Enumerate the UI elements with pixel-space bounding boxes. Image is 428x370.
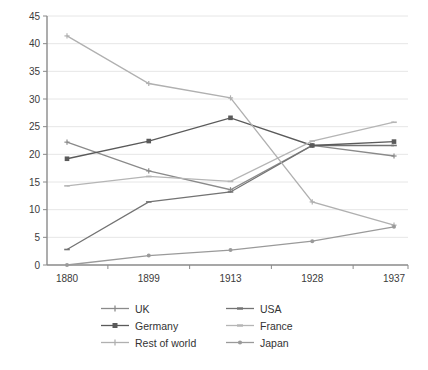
y-axis-tick-labels: 051015202530354045 bbox=[29, 11, 41, 271]
series-layer bbox=[64, 33, 397, 267]
legend-label: UK bbox=[135, 303, 150, 315]
legend-marker-cross-icon bbox=[100, 303, 130, 314]
chart-legend: UKUSAGermanyFranceRest of worldJapan bbox=[100, 300, 350, 351]
legend-marker-cross-icon bbox=[100, 337, 130, 348]
svg-text:5: 5 bbox=[34, 232, 40, 243]
legend-label: Germany bbox=[135, 320, 178, 332]
line-chart: 051015202530354045 18801899191319281937 … bbox=[0, 0, 428, 370]
svg-text:25: 25 bbox=[29, 121, 41, 132]
svg-text:1899: 1899 bbox=[138, 273, 161, 284]
legend-marker-dot-icon bbox=[225, 337, 255, 348]
plot-area: 051015202530354045 18801899191319281937 bbox=[0, 0, 428, 290]
svg-text:20: 20 bbox=[29, 149, 41, 160]
legend-label: USA bbox=[260, 303, 282, 315]
series-rest-of-world bbox=[64, 33, 396, 227]
legend-item-rest-of-world[interactable]: Rest of world bbox=[100, 337, 225, 349]
legend-item-uk[interactable]: UK bbox=[100, 303, 225, 315]
legend-label: France bbox=[260, 320, 293, 332]
svg-text:45: 45 bbox=[29, 11, 41, 22]
legend-label: Rest of world bbox=[135, 337, 196, 349]
svg-text:35: 35 bbox=[29, 66, 41, 77]
svg-text:10: 10 bbox=[29, 204, 41, 215]
svg-text:1913: 1913 bbox=[219, 273, 242, 284]
legend-marker-square-icon bbox=[100, 320, 130, 331]
gridlines bbox=[47, 16, 408, 237]
svg-text:40: 40 bbox=[29, 38, 41, 49]
svg-text:1937: 1937 bbox=[383, 273, 406, 284]
legend-item-germany[interactable]: Germany bbox=[100, 320, 225, 332]
legend-label: Japan bbox=[260, 337, 289, 349]
svg-text:15: 15 bbox=[29, 177, 41, 188]
legend-item-france[interactable]: France bbox=[225, 320, 350, 332]
x-axis-tick-labels: 18801899191319281937 bbox=[56, 273, 406, 284]
series-usa bbox=[64, 145, 397, 249]
legend-marker-dash-icon bbox=[225, 320, 255, 331]
chart-svg: 051015202530354045 18801899191319281937 bbox=[0, 0, 428, 290]
svg-text:0: 0 bbox=[34, 260, 40, 271]
legend-item-japan[interactable]: Japan bbox=[225, 337, 350, 349]
legend-marker-dash-icon bbox=[225, 303, 255, 314]
svg-text:1880: 1880 bbox=[56, 273, 79, 284]
series-japan bbox=[65, 225, 396, 267]
svg-text:1928: 1928 bbox=[301, 273, 324, 284]
series-uk bbox=[64, 140, 396, 193]
svg-text:30: 30 bbox=[29, 94, 41, 105]
legend-item-usa[interactable]: USA bbox=[225, 303, 350, 315]
